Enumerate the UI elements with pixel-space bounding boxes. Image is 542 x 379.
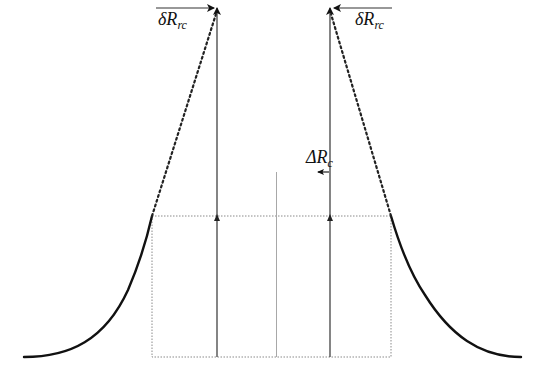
label-middle: ΔRc <box>306 148 333 169</box>
label-right-top-sub: rc <box>374 18 384 32</box>
left-dotted-slope <box>152 14 216 216</box>
label-middle-sub: c <box>328 156 333 170</box>
diagram-svg <box>0 0 542 379</box>
right-curve <box>391 216 521 357</box>
dotted-box <box>152 216 391 357</box>
label-left-top-sub: rc <box>177 18 187 32</box>
diagram-canvas: δRrc δRrc ΔRc <box>0 0 542 379</box>
left-box-arrowhead-icon <box>214 214 220 221</box>
label-right-top: δRrc <box>355 10 384 31</box>
label-right-top-main: δR <box>355 9 374 29</box>
label-left-top-main: δR <box>158 9 177 29</box>
label-left-top: δRrc <box>158 10 187 31</box>
label-middle-main: ΔR <box>306 147 328 167</box>
left-curve <box>24 216 152 357</box>
right-box-arrowhead-icon <box>327 214 333 221</box>
right-dotted-slope <box>331 14 391 216</box>
